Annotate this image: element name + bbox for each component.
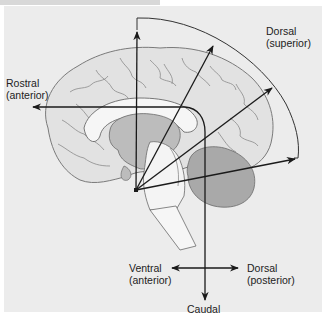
label-caudal: Caudal [187,303,220,315]
label-rostral-anterior: Rostral (anterior) [6,77,49,101]
label-ventral-anterior-line2: (anterior) [129,274,172,286]
label-rostral-anterior-line1: Rostral [6,77,49,89]
label-dorsal-superior-line2: (superior) [266,37,311,49]
label-dorsal-posterior-line2: (posterior) [247,274,295,286]
origin-point [134,188,138,192]
label-ventral-anterior: Ventral (anterior) [129,262,172,286]
label-ventral-anterior-line1: Ventral [129,262,172,274]
label-rostral-anterior-line2: (anterior) [6,89,49,101]
label-dorsal-superior: Dorsal (superior) [266,25,311,49]
label-dorsal-posterior-line1: Dorsal [247,262,295,274]
label-dorsal-posterior: Dorsal (posterior) [247,262,295,286]
label-dorsal-superior-line1: Dorsal [266,25,311,37]
